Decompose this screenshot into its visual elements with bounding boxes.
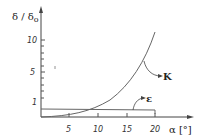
y-axis-label: δ / δo: [12, 11, 39, 24]
x-tick-15: 15: [122, 125, 132, 134]
x-tick-20: 20: [150, 125, 160, 134]
x-tick-5: 5: [66, 125, 71, 134]
x-axis-arrow-icon: [187, 115, 194, 119]
y-tick-5: 5: [30, 68, 35, 77]
eps-label: ε: [146, 93, 152, 104]
y-ticks: [41, 40, 45, 98]
series-k: [41, 32, 155, 117]
y-tick-1: 1: [32, 98, 37, 107]
y-axis-arrow-icon: [39, 6, 43, 13]
chart: 10 5 1 5 10 15 20 δ / δo α [°] K ε: [0, 0, 203, 136]
y-tick-10: 10: [27, 36, 37, 45]
eps-pointer: [133, 98, 143, 110]
k-pointer: [144, 61, 161, 76]
x-ticks: [69, 113, 155, 117]
k-label: K: [163, 71, 172, 82]
x-tick-10: 10: [93, 125, 103, 134]
x-axis-label: α [°]: [169, 124, 192, 135]
